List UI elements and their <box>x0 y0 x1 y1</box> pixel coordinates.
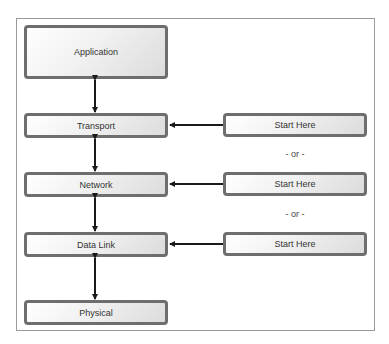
arrows-layer <box>0 0 389 344</box>
